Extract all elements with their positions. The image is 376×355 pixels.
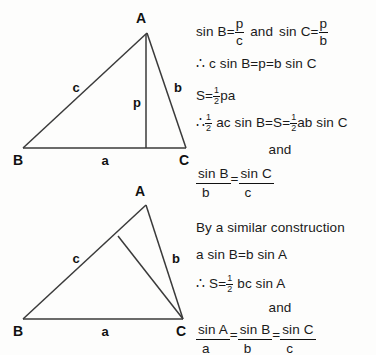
line9-half-numerator: 1 (226, 274, 233, 285)
derivation-line-4: ∴ 1 2 ac sin B=S= 1 2 ab sin C (196, 113, 348, 133)
line4-middle-expression: ac sin B=S= (216, 116, 290, 130)
line11-numerator-sinB: sin B (238, 323, 273, 340)
line11-numerator-sinC: sin C (280, 323, 315, 340)
triangles-svg: A B C c b p a A B C c (0, 0, 190, 355)
derivation-line-8: a sin B=b sin A (196, 248, 287, 262)
line9-area-symbol: S (209, 277, 218, 291)
figures-pane: A B C c b p a A B C c (0, 0, 190, 355)
line6-numerator-sinC: sin C (239, 167, 274, 184)
line6-equation: sin B b = sin C c (196, 167, 274, 200)
triangle2-label-a: a (101, 324, 109, 339)
line11-denominator-c: c (286, 340, 293, 355)
line11-fraction-sinC-over-c: sin C c (280, 323, 315, 355)
line3-half-denominator: 2 (213, 97, 220, 107)
derivation-line-2: ∴ c sin B=p=b sin C (196, 57, 317, 71)
line1-denominator-b: b (319, 33, 329, 48)
triangle2-label-c: c (72, 251, 79, 266)
line4-half-denominator: 2 (205, 124, 212, 134)
line10-and: and (269, 301, 292, 315)
line1-sin-2: sin (279, 25, 297, 39)
line4-tail-expression: ab sin C (297, 116, 347, 130)
line9-one-half: 1 2 (226, 274, 233, 294)
figure-triangle-with-cevian: A B C c b a (13, 183, 186, 339)
line1-fraction-p-over-b: p b (319, 17, 329, 47)
derivation-line-5: and (196, 143, 364, 157)
triangle1-label-b: b (174, 80, 182, 95)
line3-area-symbol: S (196, 89, 205, 103)
derivation-line-11: sin A a = sin B b = sin C c (196, 323, 316, 355)
triangle2-vertex-B: B (13, 323, 23, 339)
line9-equals: = (218, 277, 226, 291)
triangle1-label-p: p (133, 95, 141, 110)
line6-numerator-sinB: sin B (196, 167, 231, 184)
line3-tail: pa (220, 89, 235, 103)
line4-half-denominator-2: 2 (290, 124, 297, 134)
line5-and: and (269, 143, 292, 157)
derivation-line-3: S = 1 2 pa (196, 86, 235, 106)
triangle2-label-b: b (172, 251, 180, 266)
line2-therefore-symbol: ∴ (196, 57, 205, 71)
line1-angle-B: B (218, 25, 227, 39)
line11-equals-1: = (230, 328, 238, 342)
derivation-line-10: and (196, 301, 364, 315)
line11-fraction-sinB-over-b: sin B b (238, 323, 273, 355)
triangle1-label-a: a (101, 153, 109, 168)
triangle1-vertex-C: C (179, 152, 189, 168)
line4-half-numerator-2: 1 (290, 113, 297, 124)
line9-therefore-symbol: ∴ (196, 277, 205, 291)
line11-fraction-sinA-over-a: sin A a (196, 323, 230, 355)
line1-equals: = (227, 25, 235, 39)
triangle1-side-c (23, 33, 147, 148)
line11-law-of-sines: sin A a = sin B b = sin C c (196, 323, 316, 355)
line1-and: and (250, 25, 273, 39)
line6-fraction-sinC-over-c: sin C c (239, 167, 274, 200)
derivation-line-1: sin B = p c and sin C = p b (196, 17, 328, 47)
triangle2-side-c (23, 205, 146, 319)
line4-therefore-symbol: ∴ (196, 116, 205, 130)
line1-equals-2: = (311, 25, 319, 39)
triangle1-vertex-A: A (136, 10, 146, 26)
line4-half-numerator: 1 (205, 113, 212, 124)
line6-equals: = (231, 172, 239, 186)
figure-triangle-with-altitude: A B C c b p a (13, 10, 189, 168)
line11-denominator-a: a (202, 340, 210, 355)
line9-tail: bc sin A (237, 277, 285, 291)
line1-angle-C: C (301, 25, 311, 39)
triangle1-vertex-B: B (13, 152, 23, 168)
line6-fraction-sinB-over-b: sin B b (196, 167, 231, 200)
line1-fraction-p-over-c: p c (235, 17, 245, 47)
line6-denominator-b: b (202, 184, 210, 200)
derivation-line-9: ∴ S = 1 2 bc sin A (196, 274, 285, 294)
triangle2-vertex-C: C (176, 323, 186, 339)
line1-sin: sin (196, 25, 214, 39)
line3-half-numerator: 1 (213, 86, 220, 97)
line11-denominator-b: b (244, 340, 252, 355)
line11-numerator-sinA: sin A (196, 323, 230, 340)
line1-numerator-p: p (235, 17, 245, 33)
line1-denominator-c: c (235, 33, 244, 48)
line4-one-half: 1 2 (205, 113, 212, 133)
worksheet-page: A B C c b p a A B C c (0, 0, 376, 355)
line4-one-half-2: 1 2 (290, 113, 297, 133)
triangle1-label-c: c (72, 80, 79, 95)
derivation-line-6: sin B b = sin C c (196, 167, 274, 200)
line3-one-half: 1 2 (213, 86, 220, 106)
line9-half-denominator: 2 (226, 285, 233, 295)
derivation-line-7: By a similar construction (196, 221, 345, 235)
triangle2-cevian (118, 236, 183, 319)
derivation-pane: sin B = p c and sin C = p b ∴ c sin B=p=… (196, 0, 376, 355)
line7-text: By a similar construction (196, 221, 345, 235)
triangle2-vertex-A: A (135, 183, 145, 199)
line11-equals-2: = (272, 328, 280, 342)
line3-equals: = (205, 89, 213, 103)
line2-expression: c sin B=p=b sin C (209, 57, 317, 71)
line6-denominator-c: c (245, 184, 252, 200)
line1-numerator-p-2: p (319, 17, 329, 33)
line8-expression: a sin B=b sin A (196, 248, 287, 262)
